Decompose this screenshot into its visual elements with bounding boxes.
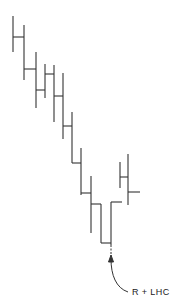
- annotation-label: R + LHC: [132, 287, 170, 297]
- arrow-head-icon: [109, 255, 114, 262]
- step-diagram: [0, 0, 193, 308]
- diagram-lines: [13, 16, 140, 245]
- annotation-arrow: [109, 245, 129, 292]
- arrow-curve: [111, 259, 128, 292]
